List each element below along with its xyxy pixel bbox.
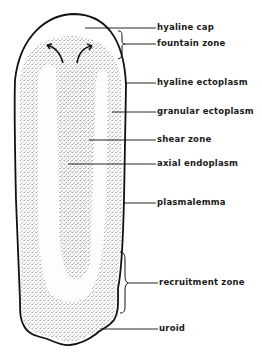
label-shear-zone: shear zone — [157, 134, 211, 144]
amoeba-diagram — [0, 0, 262, 361]
label-plasmalemma: plasmalemma — [157, 197, 226, 207]
label-granular-ectoplasm: granular ectoplasm — [157, 106, 254, 116]
label-recruitment-zone: recruitment zone — [159, 277, 245, 287]
label-hyaline-ectoplasm: hyaline ectoplasm — [157, 77, 248, 87]
label-fountain-zone: fountain zone — [157, 38, 226, 48]
label-uroid: uroid — [159, 323, 185, 333]
label-axial-endoplasm: axial endoplasm — [157, 158, 238, 168]
label-hyaline-cap: hyaline cap — [157, 22, 214, 32]
